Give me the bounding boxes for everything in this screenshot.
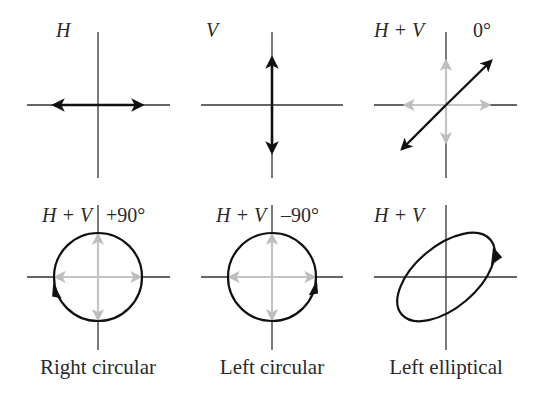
panel-label: V — [206, 19, 221, 41]
phase-label: –90° — [280, 204, 319, 226]
panel-left-elliptical: H + V Left elliptical — [373, 204, 517, 379]
panel-label: H + V — [373, 19, 427, 41]
panel-left-circular: H + V –90° Left circular — [201, 204, 343, 379]
panel-label: H — [55, 19, 72, 41]
phase-label: +90° — [106, 204, 145, 226]
panel-label: H + V — [215, 204, 269, 226]
rotation-arrowhead-icon — [489, 246, 503, 265]
panel-label: H + V — [41, 204, 95, 226]
diag-arrow-downleft-icon — [402, 105, 446, 149]
phase-label: 0° — [473, 19, 491, 41]
panel-horizontal: H — [27, 19, 170, 178]
rotation-arrowhead-icon — [309, 279, 320, 296]
caption: Left circular — [220, 355, 324, 379]
caption: Left elliptical — [389, 355, 503, 379]
rotation-arrowhead-icon — [50, 282, 61, 299]
caption: Right circular — [40, 355, 156, 379]
panel-right-circular: H + V +90° Right circular — [27, 204, 170, 379]
panel-vertical: V — [201, 19, 343, 178]
panel-linear-45: H + V 0° — [373, 19, 517, 178]
panel-label: H + V — [373, 204, 427, 226]
polarization-diagram: H V H + V 0° H + V +90° Right circul — [0, 0, 544, 394]
diag-arrow-upright-icon — [446, 61, 491, 105]
